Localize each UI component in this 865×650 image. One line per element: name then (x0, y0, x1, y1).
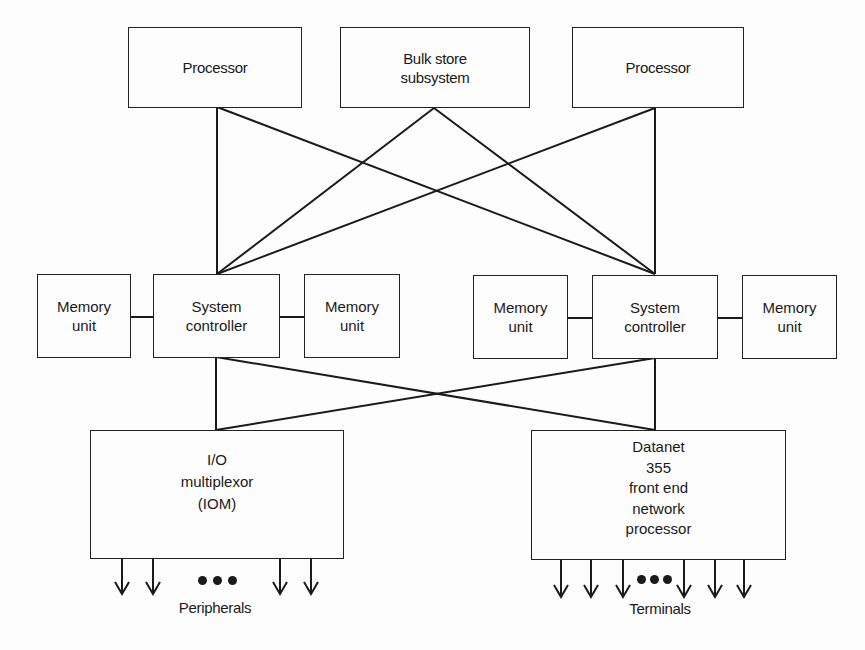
io-multiplexor-label: I/O multiplexor (IOM) (181, 449, 254, 515)
processor-right-box: Processor (572, 27, 744, 108)
memory-unit-3-box: Memory unit (473, 275, 568, 359)
system-controller-left-label: System controller (186, 297, 248, 335)
memory-unit-1-box: Memory unit (37, 274, 131, 358)
processor-left-label: Processor (183, 58, 248, 77)
wire-bulk-scR (434, 108, 655, 274)
datanet-355-label: Datanet 355 front end network processor (626, 437, 692, 540)
memory-unit-2-label: Memory unit (325, 297, 379, 335)
bulk-store-subsystem-box: Bulk store subsystem (340, 27, 530, 108)
bulk-store-label: Bulk store subsystem (401, 49, 470, 87)
memory-unit-2-box: Memory unit (304, 274, 400, 358)
memory-unit-4-label: Memory unit (762, 298, 816, 336)
terminals-label: Terminals (610, 600, 710, 617)
memory-unit-3-label: Memory unit (493, 298, 547, 336)
memory-unit-4-box: Memory unit (742, 275, 837, 359)
system-controller-right-box: System controller (592, 275, 718, 359)
system-controller-left-box: System controller (153, 274, 280, 358)
peripherals-label: Peripherals (165, 599, 265, 616)
processor-left-box: Processor (128, 27, 302, 108)
datanet-355-box: Datanet 355 front end network processor (531, 430, 786, 560)
io-multiplexor-box: I/O multiplexor (IOM) (90, 430, 344, 559)
system-controller-right-label: System controller (624, 298, 686, 336)
memory-unit-1-label: Memory unit (57, 297, 111, 335)
processor-right-label: Processor (626, 58, 691, 77)
wire-bulk-scL (217, 108, 434, 274)
